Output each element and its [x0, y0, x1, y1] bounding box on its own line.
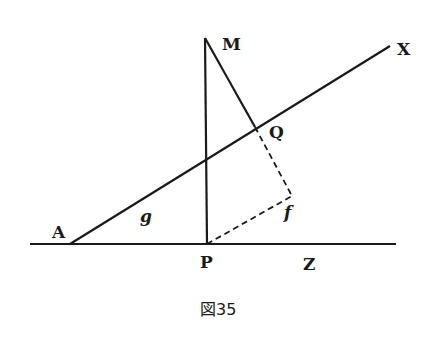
line-Pf — [207, 196, 292, 244]
figure-caption: 図35 — [200, 296, 236, 320]
label-X: X — [397, 39, 411, 59]
line-AX — [70, 46, 390, 244]
label-Z: Z — [303, 254, 315, 274]
label-Q: Q — [269, 122, 284, 142]
label-P: P — [200, 252, 213, 272]
label-A: A — [51, 222, 66, 242]
label-g: g — [140, 206, 152, 226]
label-f: f — [283, 202, 294, 222]
line-PM — [205, 38, 207, 244]
label-M: M — [222, 34, 241, 54]
